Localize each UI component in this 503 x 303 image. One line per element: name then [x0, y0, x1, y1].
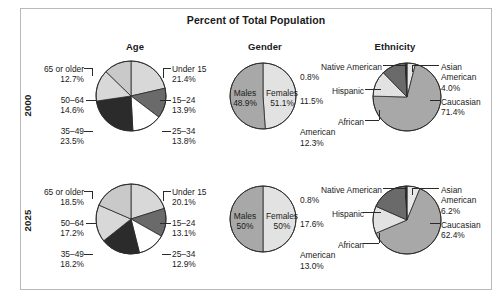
leader-eth2025-asian-v — [412, 188, 413, 195]
leader-age2025-right-mid — [160, 223, 171, 224]
label-age2000-50-64: 50–64 14.6% — [18, 95, 84, 116]
column-header-age: Age — [95, 41, 175, 52]
leader-eth2000-native-v — [405, 65, 406, 76]
label-eth2000-hispanic: Hispanic 11.5% — [300, 86, 364, 107]
label-eth2000-african: African American 12.3% — [300, 117, 364, 148]
leader-age2000-right-bot — [162, 131, 171, 132]
column-header-gender: Gender — [225, 41, 305, 52]
leader-eth2025-native-v — [405, 188, 406, 199]
label-eth2000-native: Native American 0.8% — [300, 62, 382, 83]
leader-age2025-left-top-v — [92, 191, 93, 199]
leader-eth2025-african — [363, 243, 379, 244]
leader-age2025-left-bot — [84, 254, 93, 255]
label-age2025-65-older: 65 or older 18.5% — [10, 187, 84, 208]
label-gender2000-females: Females 51.1% — [263, 88, 301, 109]
leader-age2000-left-top — [84, 68, 92, 69]
label-age2000-35-49: 35–49 23.5% — [18, 126, 84, 147]
leader-eth2000-asian-v — [412, 65, 413, 72]
leader-eth2025-native — [383, 188, 405, 189]
label-gender2025-males: Males 50% — [228, 211, 262, 232]
leader-age2000-right-top-v — [163, 68, 164, 78]
label-eth2025-asian: Asian American 6.2% — [441, 185, 476, 216]
leader-eth2000-african-v — [379, 110, 380, 120]
label-eth2025-hispanic: Hispanic 17.6% — [300, 209, 364, 230]
leader-age2000-left-mid — [86, 100, 96, 101]
column-header-ethnicity: Ethnicity — [355, 41, 435, 52]
label-age2000-25-34: 25–34 13.8% — [172, 126, 196, 147]
leader-eth2000-african — [365, 120, 379, 121]
leader-age2000-right-mid — [160, 100, 171, 101]
figure-title: Percent of Total Population — [20, 14, 492, 26]
label-age2025-35-49: 35–49 18.2% — [18, 249, 84, 270]
label-age2025-under15: Under 15 20.1% — [172, 187, 206, 208]
label-age2025-50-64: 50–64 17.2% — [18, 218, 84, 239]
pie-chart-ethnicity-2025 — [372, 185, 442, 255]
label-eth2000-asian: Asian American 4.0% — [441, 62, 476, 93]
pie-chart-age-2000 — [95, 60, 167, 132]
label-age2025-15-24: 15–24 13.1% — [172, 218, 196, 239]
pie-slice — [96, 96, 132, 131]
leader-eth2000-asian — [412, 65, 439, 66]
leader-eth2025-hispanic — [363, 212, 381, 213]
leader-age2000-left-top-v — [92, 68, 93, 76]
pie-chart-ethnicity-2000 — [372, 62, 442, 132]
label-age2000-15-24: 15–24 13.9% — [172, 95, 196, 116]
leader-eth2000-native — [383, 65, 405, 66]
figure-canvas: Percent of Total Population Age Gender E… — [0, 0, 503, 303]
leader-age2025-right-bot — [162, 254, 171, 255]
leader-eth2025-caucasian — [430, 223, 440, 224]
leader-eth2025-asian — [412, 188, 439, 189]
leader-age2025-left-mid — [86, 223, 96, 224]
label-age2000-65-older: 65 or older 12.7% — [10, 64, 84, 85]
leader-eth2025-african-v — [379, 233, 380, 243]
label-age2025-25-34: 25–34 12.9% — [172, 249, 196, 270]
leader-eth2000-hispanic — [365, 89, 381, 90]
leader-age2000-left-bot — [84, 131, 93, 132]
pie-chart-age-2025 — [95, 183, 167, 255]
leader-eth2000-caucasian — [430, 100, 440, 101]
label-eth2000-caucasian: Caucasian 71.4% — [441, 97, 481, 118]
leader-age2025-right-top — [163, 191, 171, 192]
label-eth2025-caucasian: Caucasian 62.4% — [441, 220, 481, 241]
label-eth2025-native: Native American 0.8% — [300, 185, 382, 206]
leader-age2025-left-top — [84, 191, 92, 192]
label-age2000-under15: Under 15 21.4% — [172, 64, 206, 85]
leader-age2000-right-top — [163, 68, 171, 69]
leader-age2025-right-top-v — [163, 191, 164, 201]
label-gender2000-males: Males 48.9% — [228, 88, 262, 109]
label-eth2025-african: African American 13.0% — [300, 240, 364, 271]
label-gender2025-females: Females 50% — [263, 211, 301, 232]
